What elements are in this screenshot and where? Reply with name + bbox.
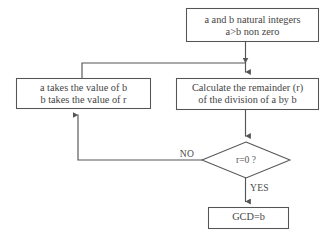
decision-node-shape (202, 142, 290, 178)
assign-node-shape (17, 79, 151, 109)
calculate-node-shape (177, 79, 319, 110)
result-node-shape (209, 208, 289, 229)
flowchart-canvas (0, 0, 326, 239)
start-node-shape (187, 9, 319, 42)
edge-no-back-to-assign (78, 115, 202, 160)
edge-assign-to-calculate (82, 63, 246, 78)
